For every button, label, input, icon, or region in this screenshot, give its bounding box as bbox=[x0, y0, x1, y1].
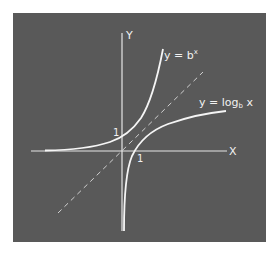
logarithmic-label-base: y = log bbox=[199, 96, 239, 109]
x-axis-label: X bbox=[229, 146, 237, 157]
exponential-label-base: y = b bbox=[164, 49, 194, 62]
y-tick-label: 1 bbox=[113, 128, 119, 138]
y-axis-label: Y bbox=[126, 30, 133, 41]
logarithmic-label-subscript: b bbox=[239, 102, 243, 110]
exponential-label-exponent: x bbox=[194, 48, 198, 56]
exponential-curve bbox=[45, 49, 163, 151]
logarithmic-label: y = logb x bbox=[199, 97, 253, 108]
logarithmic-curve bbox=[124, 111, 226, 231]
exponential-label: y = bx bbox=[164, 50, 198, 61]
identity-line-dashed bbox=[58, 72, 203, 213]
logarithmic-label-argument: x bbox=[243, 96, 253, 109]
x-tick-label: 1 bbox=[137, 154, 143, 164]
graph-canvas bbox=[0, 0, 277, 262]
